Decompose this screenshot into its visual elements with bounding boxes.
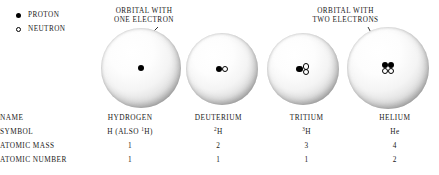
- table-row-symbol: SYMBOL H (ALSO 1H) 2H 3H He: [0, 124, 439, 138]
- cell-atomic-mass-tritium: 3: [263, 138, 351, 152]
- cell-name-helium: HELIUM: [351, 110, 439, 124]
- cell-atomic-number-helium: 2: [351, 152, 439, 166]
- legend-label-proton: PROTON: [28, 11, 59, 19]
- annotation-two-electrons-line2: TWO ELECTRONS: [293, 16, 398, 25]
- table-row-atomic-number: ATOMIC NUMBER 1 1 1 2: [0, 152, 439, 166]
- cell-symbol-deuterium: 2H: [174, 124, 262, 138]
- cell-atomic-mass-helium: 4: [351, 138, 439, 152]
- annotation-one-electron-line1: ORBITAL WITH: [98, 7, 190, 16]
- cell-atomic-number-deuterium: 1: [174, 152, 262, 166]
- annotation-two-electrons-line1: ORBITAL WITH: [293, 7, 398, 16]
- row-label-symbol: SYMBOL: [0, 124, 86, 138]
- open-circle-icon: [14, 27, 23, 32]
- row-label-atomic-mass: ATOMIC MASS: [0, 138, 86, 152]
- isotope-table: NAME HYDROGEN DEUTERIUM TRITIUM HELIUM S…: [0, 110, 439, 166]
- cell-symbol-hydrogen: H (ALSO 1H): [86, 124, 174, 138]
- symbol-element-helium: He: [390, 127, 399, 136]
- legend-item-proton: PROTON: [14, 9, 66, 21]
- legend: PROTON NEUTRON: [14, 9, 66, 37]
- table-row-atomic-mass: ATOMIC MASS 1 2 3 4: [0, 138, 439, 152]
- filled-circle-icon: [14, 13, 23, 18]
- cell-name-tritium: TRITIUM: [263, 110, 351, 124]
- cell-atomic-mass-hydrogen: 1: [86, 138, 174, 152]
- cell-name-hydrogen: HYDROGEN: [86, 110, 174, 124]
- proton-particle: [296, 66, 302, 72]
- annotation-one-electron-line2: ONE ELECTRON: [98, 16, 190, 25]
- legend-label-neutron: NEUTRON: [28, 25, 66, 33]
- row-label-name: NAME: [0, 110, 86, 124]
- cell-atomic-number-tritium: 1: [263, 152, 351, 166]
- row-label-atomic-number: ATOMIC NUMBER: [0, 152, 86, 166]
- cell-atomic-mass-deuterium: 2: [174, 138, 262, 152]
- symbol-element-tritium: H: [305, 127, 311, 136]
- cell-symbol-helium: He: [351, 124, 439, 138]
- table-row-name: NAME HYDROGEN DEUTERIUM TRITIUM HELIUM: [0, 110, 439, 124]
- cell-name-deuterium: DEUTERIUM: [174, 110, 262, 124]
- neutron-particle: [303, 69, 309, 75]
- atom-isotope-diagram: PROTON NEUTRON ORBITAL WITH ONE ELECTRON…: [0, 0, 439, 175]
- annotation-one-electron: ORBITAL WITH ONE ELECTRON: [98, 7, 190, 25]
- cell-symbol-tritium: 3H: [263, 124, 351, 138]
- symbol-suffix-hydrogen: ): [150, 127, 153, 136]
- symbol-element-deuterium: H: [217, 127, 223, 136]
- cell-atomic-number-hydrogen: 1: [86, 152, 174, 166]
- symbol-prefix-hydrogen: H (ALSO: [107, 127, 141, 136]
- legend-item-neutron: NEUTRON: [14, 23, 66, 35]
- annotation-two-electrons: ORBITAL WITH TWO ELECTRONS: [293, 7, 398, 25]
